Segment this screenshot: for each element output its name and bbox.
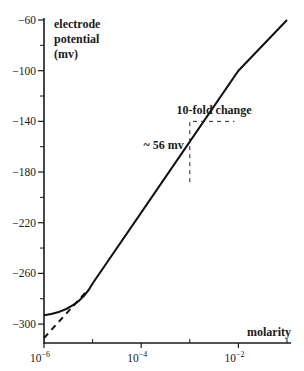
x-tick-label: 10−4 bbox=[127, 350, 147, 364]
y-tick-label: −300 bbox=[12, 318, 36, 330]
measured-curve bbox=[44, 20, 287, 315]
y-tick-label: −60 bbox=[18, 14, 36, 26]
x-tick-label: 10−6 bbox=[30, 350, 50, 364]
y-axis-ticks: −60−100−140−180−220−260−300 bbox=[12, 14, 44, 330]
ten-fold-change-label: 10-fold change bbox=[177, 103, 253, 117]
y-axis-title: electrode potential (mv) bbox=[54, 17, 103, 61]
y-tick-label: −140 bbox=[12, 115, 36, 127]
y-tick-label: −180 bbox=[12, 166, 36, 178]
x-axis-title: molarity bbox=[247, 325, 291, 339]
56-mv-label: ~ 56 mv bbox=[144, 138, 184, 152]
y-tick-label: −260 bbox=[12, 267, 36, 279]
electrode-potential-chart: −60−100−140−180−220−260−300 10−610−410−2… bbox=[0, 0, 304, 371]
x-tick-label: 10−2 bbox=[224, 350, 244, 364]
y-tick-label: −100 bbox=[12, 65, 36, 77]
y-tick-label: −220 bbox=[12, 217, 36, 229]
